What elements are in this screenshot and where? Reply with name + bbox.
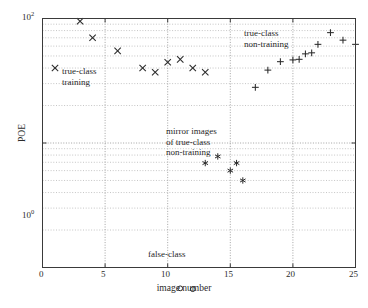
data-point	[240, 177, 246, 183]
data-point	[52, 65, 58, 71]
x-tick-label-15: 15	[224, 270, 233, 279]
y-tick-label-top: 102	[22, 13, 34, 22]
data-point	[252, 84, 259, 91]
data-point	[327, 29, 334, 36]
annotation-line: mirror images	[166, 126, 217, 137]
annotation-line: of true-class	[166, 137, 217, 148]
data-point	[277, 58, 284, 65]
x-axis-title: image number	[0, 283, 368, 293]
data-point	[290, 57, 297, 64]
data-point	[315, 41, 322, 48]
annotation-line: true-class	[62, 66, 96, 77]
data-point	[296, 56, 303, 63]
y-axis-title: POE	[17, 113, 27, 153]
data-point	[234, 160, 240, 166]
data-point	[89, 35, 95, 41]
x-tick-label-25: 25	[349, 270, 358, 279]
data-point	[114, 48, 120, 54]
data-point	[152, 69, 158, 75]
y-tick-label-bottom: 100	[22, 211, 34, 220]
data-point	[264, 67, 271, 74]
annotation-true-class-non-training: true-class non-training	[244, 28, 289, 49]
data-point	[202, 160, 208, 166]
data-point	[190, 65, 196, 71]
annotation-true-class-training: true-class training	[62, 66, 96, 87]
data-point	[77, 18, 83, 24]
series-*	[202, 153, 245, 183]
x-tick-label-0: 0	[39, 270, 44, 279]
annotation-mirror-images: mirror images of true-class non-training	[166, 126, 217, 158]
x-tick-label-5: 5	[101, 270, 106, 279]
data-point	[202, 69, 208, 75]
annotation-false-class: false-class	[148, 249, 185, 260]
annotation-line: non-training	[166, 147, 217, 158]
x-tick-label-10: 10	[161, 270, 170, 279]
annotation-line: non-training	[244, 39, 289, 50]
annotation-line: training	[62, 77, 96, 88]
annotation-line: true-class	[244, 28, 289, 39]
data-point	[308, 49, 315, 56]
x-tick-label-20: 20	[286, 270, 295, 279]
scatter-plot-figure: 102 100 0 5 10 15 20 25 image number POE…	[0, 0, 368, 308]
data-point	[177, 56, 183, 62]
data-point	[165, 59, 171, 65]
